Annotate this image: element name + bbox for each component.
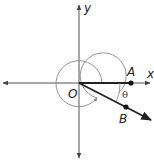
diagram: y x O A B θ: [0, 0, 154, 161]
theta-arc: [117, 83, 121, 101]
x-axis-label: x: [146, 67, 154, 81]
point-b: [123, 104, 128, 109]
origin-label: O: [68, 87, 77, 101]
point-a: [128, 80, 133, 85]
point-a-label: A: [126, 65, 135, 79]
point-b-label: B: [119, 112, 127, 126]
angle-theta-label: θ: [122, 89, 128, 100]
coordinate-plane: y x O A B θ: [0, 0, 154, 161]
y-axis-label: y: [83, 1, 92, 15]
terminal-side-ob: [79, 83, 151, 120]
